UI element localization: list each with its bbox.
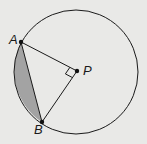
right-angle-marker — [65, 67, 72, 77]
diagram-canvas: A P B — [0, 0, 147, 144]
radius-PA — [21, 42, 77, 71]
label-B: B — [34, 122, 43, 137]
shaded-segment — [14, 42, 42, 122]
label-P: P — [83, 63, 92, 78]
point-A — [19, 40, 23, 44]
circle-diagram: A P B — [0, 0, 147, 144]
label-A: A — [8, 32, 18, 47]
point-P — [75, 69, 79, 73]
radius-PB — [42, 71, 77, 122]
